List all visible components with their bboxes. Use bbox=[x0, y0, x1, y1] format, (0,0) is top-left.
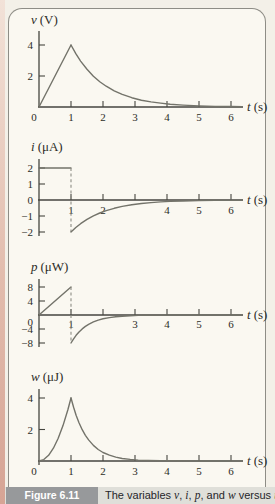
y-tick-label: 0 bbox=[28, 194, 34, 206]
x-tick-label: 5 bbox=[196, 318, 202, 330]
x-tick-label: 6 bbox=[228, 111, 234, 123]
x-tick-label: 1 bbox=[68, 111, 74, 123]
x-tick-label: 6 bbox=[228, 465, 234, 477]
y-tick-label: 4 bbox=[28, 295, 34, 307]
energy-curve bbox=[71, 398, 242, 461]
x-axis-title: t(s) bbox=[247, 307, 267, 322]
x-tick-label: 5 bbox=[196, 465, 202, 477]
y-tick-label: −1 bbox=[21, 210, 33, 222]
y-tick-label: 1 bbox=[28, 178, 34, 190]
y-tick-label: 2 bbox=[28, 424, 34, 436]
y-tick-label: −4 bbox=[21, 323, 33, 335]
y-tick-label: 4 bbox=[28, 392, 34, 404]
voltage-curve bbox=[71, 45, 242, 107]
y-tick-label: −8 bbox=[21, 337, 33, 349]
y-axis-title: i(μA) bbox=[31, 139, 63, 154]
y-axis-title: w(μJ) bbox=[31, 369, 63, 384]
x-tick-label: 5 bbox=[196, 204, 202, 216]
y-tick-label: 2 bbox=[28, 70, 34, 82]
textbook-figure: 012345624v(V)t(s) 12456210−1−2i(μA)t(s) … bbox=[0, 0, 275, 504]
y-axis-title: v(V) bbox=[31, 12, 58, 27]
x-tick-label: 6 bbox=[228, 318, 234, 330]
chart-voltage: 012345624v(V)t(s) bbox=[28, 12, 268, 123]
caption-part: versus bbox=[236, 489, 275, 501]
x-tick-label: 4 bbox=[164, 204, 170, 216]
caption-var-w: w bbox=[228, 489, 236, 501]
x-tick-label: 4 bbox=[164, 318, 170, 330]
caption-part: , and bbox=[200, 489, 228, 501]
caption-var-t: t bbox=[274, 489, 275, 501]
chart-current: 12456210−1−2i(μA)t(s) bbox=[21, 139, 267, 238]
y-tick-label: 8 bbox=[28, 281, 34, 293]
plots-canvas: 012345624v(V)t(s) 12456210−1−2i(μA)t(s) … bbox=[0, 0, 275, 504]
x-axis-title: t(s) bbox=[247, 192, 267, 207]
x-tick-label: 2 bbox=[100, 204, 106, 216]
x-axis-title: t(s) bbox=[247, 99, 267, 114]
x-tick-label: 4 bbox=[164, 111, 170, 123]
y-tick-label: 4 bbox=[28, 39, 34, 51]
x-tick-label: 6 bbox=[228, 204, 234, 216]
x-tick-label: 3 bbox=[132, 465, 138, 477]
power-curve bbox=[71, 315, 242, 343]
y-tick-label: 2 bbox=[28, 162, 34, 174]
figure-caption: The variables v, i, p, and w versus t bbox=[105, 487, 275, 504]
chart-power: 13456840−4−8p(μW)t(s) bbox=[21, 259, 267, 349]
x-tick-label: 5 bbox=[196, 111, 202, 123]
x-tick-label: 2 bbox=[100, 465, 106, 477]
x-tick-label: 3 bbox=[132, 111, 138, 123]
x-tick-label: 2 bbox=[100, 111, 106, 123]
x-tick-label: 1 bbox=[68, 465, 74, 477]
x-tick-label: 4 bbox=[164, 465, 170, 477]
x-tick-label: 3 bbox=[132, 318, 138, 330]
x-axis-title: t(s) bbox=[247, 453, 267, 468]
caption-part: The variables bbox=[105, 489, 174, 501]
y-tick-label: −2 bbox=[21, 226, 33, 238]
x-tick-label: 0 bbox=[31, 111, 37, 123]
x-tick-label: 0 bbox=[31, 465, 37, 477]
y-axis-title: p(μW) bbox=[30, 259, 68, 274]
chart-energy: 012345624w(μJ)t(s) bbox=[28, 369, 268, 477]
current-curve bbox=[71, 200, 242, 232]
figure-number-badge: Figure 6.11 bbox=[6, 487, 98, 504]
